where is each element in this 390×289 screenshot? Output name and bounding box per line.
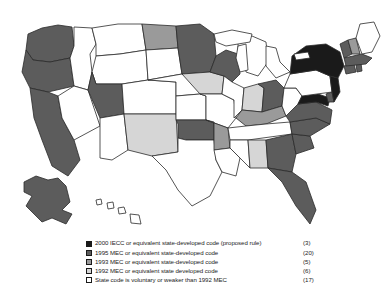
state-AZ[interactable]: [100, 114, 128, 160]
legend-label-2000-iecc: 2000 IECC or equivalent state-developed …: [95, 240, 261, 246]
state-FL[interactable]: [268, 168, 316, 224]
state-WA[interactable]: [26, 25, 74, 62]
state-HI-2[interactable]: [107, 202, 114, 209]
state-IN[interactable]: [242, 84, 264, 112]
state-NM[interactable]: [124, 114, 178, 156]
legend-label-1992-mec: 1992 MEC or equivalent state developed c…: [95, 268, 218, 274]
state-CO[interactable]: [122, 80, 176, 114]
map-legend: 2000 IECC or equivalent state-developed …: [86, 239, 326, 285]
lake-huron-erie: [266, 46, 290, 78]
state-SC[interactable]: [292, 134, 314, 154]
legend-swatch-voluntary-icon: [86, 277, 92, 283]
state-GA[interactable]: [266, 134, 296, 172]
legend-swatch-1993-mec-icon: [86, 259, 92, 265]
state-KS[interactable]: [176, 94, 206, 120]
legend-swatch-2000-iecc-icon: [86, 241, 92, 247]
us-energy-code-map-figure: 2000 IECC or equivalent state-developed …: [0, 0, 390, 289]
state-ME[interactable]: [356, 22, 380, 54]
legend-count-1993-mec: (5): [303, 259, 310, 265]
legend-label-1995-mec: 1995 MEC or equivalent state-developed c…: [95, 250, 218, 256]
legend-count-voluntary: (17): [303, 277, 314, 283]
state-MN[interactable]: [176, 24, 216, 74]
state-AK[interactable]: [24, 176, 72, 224]
us-map-svg: [0, 0, 390, 240]
state-ND[interactable]: [142, 24, 178, 50]
legend-count-1995-mec: (20): [303, 250, 314, 256]
legend-label-voluntary: State code is voluntary or weaker than 1…: [95, 277, 227, 283]
legend-label-1993-mec: 1993 MEC or equivalent state-developed c…: [95, 259, 218, 265]
legend-count-1992-mec: (6): [303, 268, 310, 274]
state-HI-1[interactable]: [96, 199, 102, 205]
state-OK[interactable]: [176, 120, 214, 140]
legend-swatch-1992-mec-icon: [86, 268, 92, 274]
map-canvas: [0, 0, 390, 240]
legend-row-1995-mec[interactable]: 1995 MEC or equivalent state-developed c…: [86, 248, 326, 257]
legend-row-1993-mec[interactable]: 1993 MEC or equivalent state-developed c…: [86, 257, 326, 266]
legend-row-2000-iecc[interactable]: 2000 IECC or equivalent state-developed …: [86, 239, 326, 248]
states-layer: [22, 22, 380, 224]
state-AL[interactable]: [248, 140, 268, 168]
legend-swatch-1995-mec-icon: [86, 250, 92, 256]
legend-count-2000-iecc: (3): [303, 240, 310, 246]
state-HI-4[interactable]: [130, 214, 141, 224]
legend-row-voluntary[interactable]: State code is voluntary or weaker than 1…: [86, 276, 326, 285]
state-HI-3[interactable]: [118, 207, 126, 214]
legend-row-1992-mec[interactable]: 1992 MEC or equivalent state developed c…: [86, 267, 326, 276]
